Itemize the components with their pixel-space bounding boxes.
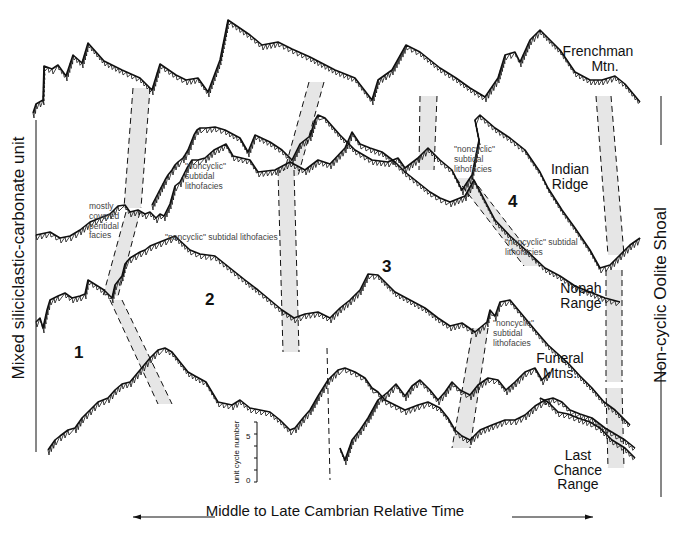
- section-label-indian-ridge: Indian Ridge: [540, 162, 600, 191]
- correlation-band: [124, 88, 150, 208]
- fischer-curve-frenchman: [33, 20, 640, 113]
- scale-tick-5: 5: [246, 433, 250, 441]
- correlation-bands: [103, 82, 624, 468]
- section-label-frenchman-mtn: Frenchman Mtn.: [558, 44, 638, 73]
- correlation-band: [278, 170, 299, 352]
- annotation-noncyclic-b: "noncyclic" subtidal lithofacies: [165, 233, 278, 243]
- annotation-noncyclic-c: "noncyclic" subtidal lithofacies: [454, 145, 495, 174]
- correlation-dashed-lines: [327, 348, 330, 480]
- zone-label-4: 4: [508, 193, 517, 211]
- correlation-band: [596, 96, 624, 255]
- annotation-noncyclic-d: "noncyclic" subtidal lithofacies: [505, 238, 578, 258]
- annotation-mostly-covered: mostly covered peritidal facies: [89, 202, 119, 241]
- right-facies-label: Non-cyclic Oolite Shoal: [646, 95, 676, 495]
- scale-bar-label: unit cycle number: [230, 422, 242, 482]
- section-label-last-chance-range: Last Chance Range: [548, 448, 608, 492]
- correlation-band: [606, 388, 624, 468]
- cycle-sawtooth-nopah: [36, 132, 620, 306]
- cycle-sawtooth-frenchman: [33, 20, 640, 118]
- zone-label-1: 1: [74, 344, 83, 362]
- zone-label-3: 3: [382, 258, 391, 276]
- section-label-funeral-mtns: Funeral Mtns.: [525, 351, 595, 380]
- correlation-dashed-line: [327, 348, 330, 480]
- section-label-nopah-range: Nopah Range: [551, 281, 611, 310]
- correlation-band: [110, 300, 172, 404]
- scale-bar: [254, 422, 257, 482]
- cycle-sawtooth-lc_part2: [340, 368, 550, 465]
- scale-tick-0: 0: [246, 477, 250, 485]
- time-axis-label: Middle to Late Cambrian Relative Time: [110, 502, 560, 519]
- annotation-noncyclic-a: "noncyclic" subtidal lithofacies: [185, 162, 226, 191]
- annotation-noncyclic-e: "noncyclic" subtidal lithofacies: [493, 319, 534, 348]
- zone-label-2: 2: [205, 291, 214, 309]
- left-facies-label: Mixed siliciclastic-carbonate unit: [4, 58, 34, 458]
